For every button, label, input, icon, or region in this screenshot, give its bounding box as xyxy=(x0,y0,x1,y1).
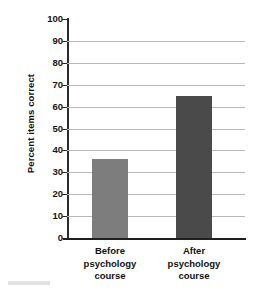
category-label-line: psychology xyxy=(65,258,155,271)
y-axis-tick-label: 90 xyxy=(37,36,63,46)
y-axis-tick-label: 30 xyxy=(37,167,63,177)
y-axis-tick xyxy=(62,129,67,130)
category-label-line: psychology xyxy=(149,258,239,271)
y-axis-tick-label: 100 xyxy=(37,14,63,24)
y-axis-tick xyxy=(62,41,67,42)
gridline xyxy=(67,41,245,42)
y-axis-tick-label: 20 xyxy=(37,189,63,199)
y-axis-tick-label: 80 xyxy=(37,58,63,68)
y-axis-tick-label: 60 xyxy=(37,102,63,112)
y-axis-tick-labels: 0102030405060708090100 xyxy=(35,0,63,290)
x-axis-category-label: Afterpsychologycourse xyxy=(149,245,239,283)
y-axis-tick xyxy=(62,194,67,195)
bar xyxy=(176,96,212,238)
gridline xyxy=(67,63,245,64)
category-label-line: course xyxy=(65,270,155,283)
x-axis-category-label: Beforepsychologycourse xyxy=(65,245,155,283)
category-label-line: course xyxy=(149,270,239,283)
gridline xyxy=(67,107,245,108)
y-axis-tick-label: 70 xyxy=(37,80,63,90)
scan-artifact xyxy=(8,281,50,285)
y-axis-tick xyxy=(62,85,67,86)
y-axis-title: Percent items correct xyxy=(25,54,36,194)
y-axis-tick-label: 0 xyxy=(37,233,63,243)
bar-chart-figure: Percent items correct 010203040506070809… xyxy=(0,0,254,290)
y-axis-tick xyxy=(62,216,67,217)
y-axis-tick-label: 40 xyxy=(37,145,63,155)
y-axis-tick-label: 50 xyxy=(37,124,63,134)
bar xyxy=(92,159,128,238)
y-axis-tick xyxy=(62,19,67,20)
gridline xyxy=(67,129,245,130)
x-axis-line xyxy=(63,238,246,240)
y-axis-tick xyxy=(62,150,67,151)
category-label-line: Before xyxy=(65,245,155,258)
y-axis-tick xyxy=(62,63,67,64)
plot-area xyxy=(67,19,245,238)
y-axis-tick-label: 10 xyxy=(37,211,63,221)
y-axis-tick xyxy=(62,107,67,108)
gridline xyxy=(67,150,245,151)
y-axis-tick xyxy=(62,172,67,173)
category-label-line: After xyxy=(149,245,239,258)
gridline xyxy=(67,85,245,86)
